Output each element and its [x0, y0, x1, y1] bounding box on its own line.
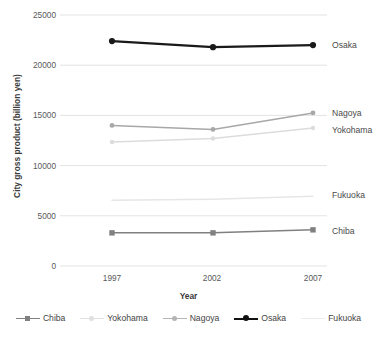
legend-marker-icon [25, 316, 30, 321]
legend-item-fukuoka[interactable]: Fukuoka [301, 313, 361, 323]
chart-legend: ChibaYokohamaNagoyaOsakaFukuoka [0, 313, 377, 323]
legend-item-chiba[interactable]: Chiba [16, 313, 65, 323]
data-point-chiba [109, 230, 114, 235]
data-point-osaka [310, 42, 316, 48]
plot-area [0, 0, 377, 337]
legend-marker-icon [243, 315, 249, 321]
legend-item-nagoya[interactable]: Nagoya [163, 313, 220, 323]
series-label-osaka: Osaka [332, 41, 357, 50]
legend-item-osaka[interactable]: Osaka [234, 313, 286, 323]
legend-swatch-icon [163, 314, 187, 323]
series-label-yokohama: Yokohama [332, 126, 372, 135]
line-chart: City gross product (billion yen) 25000 2… [0, 0, 377, 337]
data-point-yokohama [211, 136, 215, 140]
data-point-yokohama [110, 140, 114, 144]
legend-swatch-icon [301, 314, 325, 323]
series-label-chiba: Chiba [332, 227, 354, 236]
legend-swatch-icon [234, 314, 258, 323]
data-point-nagoya [211, 127, 216, 132]
x-tick-1997: 1997 [82, 274, 142, 282]
legend-marker-icon [89, 316, 94, 321]
data-point-chiba [210, 230, 215, 235]
legend-label: Yokohama [107, 313, 147, 323]
legend-item-yokohama[interactable]: Yokohama [80, 313, 147, 323]
series-label-fukuoka: Fukuoka [332, 191, 365, 200]
legend-label: Fukuoka [328, 313, 361, 323]
legend-marker-icon [172, 316, 177, 321]
legend-label: Osaka [261, 313, 286, 323]
legend-swatch-icon [80, 314, 104, 323]
x-tick-2007: 2007 [283, 274, 343, 282]
data-point-osaka [109, 38, 115, 44]
data-point-chiba [310, 227, 315, 232]
data-point-yokohama [311, 126, 315, 130]
legend-label: Chiba [43, 313, 65, 323]
legend-swatch-icon [16, 314, 40, 323]
x-axis-title: Year [0, 291, 377, 301]
data-point-nagoya [110, 123, 115, 128]
series-line-fukuoka [112, 196, 313, 200]
data-point-osaka [210, 44, 216, 50]
series-label-nagoya: Nagoya [332, 109, 362, 118]
legend-label: Nagoya [190, 313, 220, 323]
x-tick-2002: 2002 [182, 274, 242, 282]
data-point-nagoya [311, 110, 316, 115]
